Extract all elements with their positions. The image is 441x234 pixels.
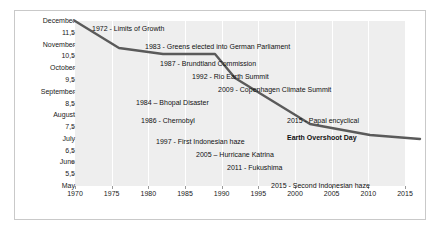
annotation-rio-earth-summit: 1992 - Rio Earth Summit	[192, 73, 269, 81]
y-tick-october: October	[23, 64, 75, 72]
x-tick-1985: 1985	[177, 190, 193, 198]
x-tickmark-1985	[185, 186, 186, 189]
annotation-fukushima: 2011 - Fukushima	[227, 164, 283, 172]
y-tick-10-5: 10,5	[23, 52, 75, 60]
x-tickmark-2015	[405, 186, 406, 189]
y-tick-may: May	[23, 182, 75, 190]
y-tickmark-0	[72, 21, 75, 22]
x-tick-2000: 2000	[287, 190, 303, 198]
y-tickmark-6	[72, 92, 75, 93]
gridline-2010	[368, 21, 369, 186]
x-tick-2015: 2015	[397, 190, 413, 198]
x-tickmark-1980	[148, 186, 149, 189]
annotation-greens-german-parliament: 1983 - Greens elected into German Parlia…	[145, 43, 290, 51]
annotation-brundtland-commission: 1987 - Brundtland Commission	[160, 60, 256, 68]
y-tickmark-9	[72, 127, 75, 128]
annotation-earth-overshoot-day: Earth Overshoot Day	[287, 134, 357, 142]
annotation-chernobyl: 1986 - Chernobyl	[141, 117, 195, 125]
y-tickmark-1	[72, 33, 75, 34]
gridline-2005	[332, 21, 333, 186]
y-tick-august: August	[23, 111, 75, 119]
y-tick-november: November	[23, 41, 75, 49]
x-tickmark-1990	[222, 186, 223, 189]
x-tick-1995: 1995	[251, 190, 267, 198]
y-tickmark-12	[72, 162, 75, 163]
x-tick-1970: 1970	[67, 190, 83, 198]
chart-figure: December 11,5 November 10,5 October 9,5 …	[14, 10, 426, 220]
annotation-hurricane-katrina: 2005 – Hurricane Katrina	[196, 151, 274, 159]
y-tickmark-13	[72, 174, 75, 175]
y-tickmark-2	[72, 45, 75, 46]
gridline-1975	[112, 21, 113, 186]
annotation-second-indonesian-haze: 2015 - Second Indonesian haze	[271, 182, 370, 190]
y-tick-6-5: 6,5	[23, 147, 75, 155]
x-tick-2005: 2005	[324, 190, 340, 198]
y-tickmark-7	[72, 104, 75, 105]
x-tick-1990: 1990	[214, 190, 230, 198]
y-tickmark-11	[72, 151, 75, 152]
y-tick-8-5: 8,5	[23, 100, 75, 108]
x-tickmark-1975	[112, 186, 113, 189]
x-tickmark-1970	[75, 186, 76, 189]
y-tick-7-5: 7,5	[23, 123, 75, 131]
gridline-2000	[295, 21, 296, 186]
annotation-papal-encyclical: 2015 - Papal encyclical	[287, 117, 359, 125]
y-tickmark-3	[72, 56, 75, 57]
y-tickmark-10	[72, 139, 75, 140]
y-tick-9-5: 9,5	[23, 76, 75, 84]
annotation-first-indonesian-haze: 1997 - First Indonesian haze	[156, 138, 245, 146]
y-tick-september: September	[23, 88, 75, 96]
y-tick-11-5: 11,5	[23, 29, 75, 37]
x-tick-1980: 1980	[141, 190, 157, 198]
y-tick-june: June	[23, 158, 75, 166]
x-tickmark-1995	[258, 186, 259, 189]
y-tick-july: July	[23, 135, 75, 143]
y-tickmark-5	[72, 80, 75, 81]
y-tick-5-5: 5,5	[23, 170, 75, 178]
y-tick-december: December	[23, 17, 75, 25]
annotation-limits-of-growth: 1972 - Limits of Growth	[92, 25, 164, 33]
x-tick-1975: 1975	[104, 190, 120, 198]
annotation-copenhagen-climate-summit: 2009 - Copenhagen Climate Summit	[218, 86, 331, 94]
gridline-2015	[405, 21, 406, 186]
plot-area: December 11,5 November 10,5 October 9,5 …	[75, 21, 405, 186]
y-tickmark-8	[72, 115, 75, 116]
annotation-bhopal-disaster: 1984 – Bhopal Disaster	[136, 99, 209, 107]
x-tick-2010: 2010	[361, 190, 377, 198]
y-tickmark-4	[72, 68, 75, 69]
